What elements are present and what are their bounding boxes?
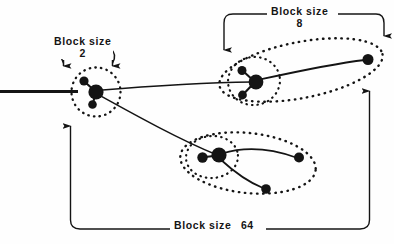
- node-child: [197, 152, 207, 162]
- node-root-left: [88, 84, 103, 99]
- cluster-lower-middle: [177, 126, 319, 200]
- node-child: [238, 91, 247, 100]
- label-block-size-2: Block size 2: [52, 36, 113, 59]
- node-root-lower-middle: [211, 147, 226, 162]
- node-child: [79, 76, 88, 85]
- cluster-lower-middle-outer-boundary: [177, 126, 319, 200]
- label-block-size-2-value: 2: [54, 48, 111, 59]
- label-block-size-8-text: Block size: [271, 5, 328, 17]
- label-block-size-8: Block size 8: [268, 6, 331, 29]
- edge-to-right-leaf: [258, 60, 365, 80]
- node-leaf: [363, 54, 374, 65]
- label-block-size-8-value: 8: [271, 18, 328, 29]
- bracket-64-left-arrow: [71, 126, 81, 229]
- bracket-8-right-arrow: [376, 14, 384, 36]
- label-block-size-64: Block size 64: [170, 220, 258, 231]
- node-child: [88, 100, 97, 109]
- node-leaf: [261, 184, 271, 194]
- edge-to-right-leaf: [222, 149, 296, 157]
- node-child: [238, 66, 247, 75]
- label-block-size-2-text: Block size: [54, 35, 111, 47]
- bracket-64-right-arrow: [360, 91, 370, 229]
- block-size-diagram: Block size 2 Block size 8 Block size 64: [0, 0, 394, 244]
- cluster-upper-right: [214, 27, 388, 114]
- node-root-upper-right: [249, 75, 264, 90]
- cluster-left: [72, 68, 121, 117]
- node-leaf: [294, 153, 304, 163]
- label-block-size-64-text: Block size: [174, 219, 231, 231]
- edge-left-to-lower-middle: [97, 94, 216, 155]
- bracket-8-left-arrow: [224, 14, 233, 50]
- label-block-size-64-value: 64: [241, 219, 254, 231]
